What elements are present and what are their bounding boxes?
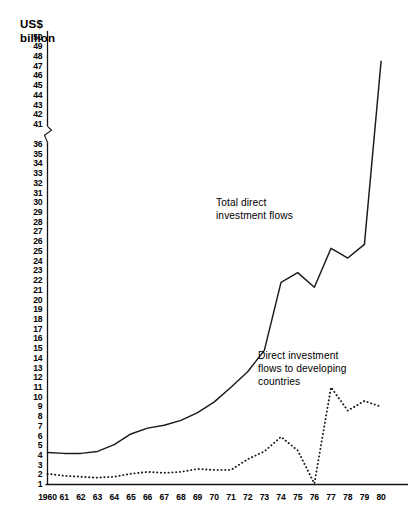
series-annotation-direct-investment-flows-to-developing-countries: Direct investment flows to developing co… <box>258 349 347 389</box>
y-axis-tick-23: 23 <box>19 266 43 275</box>
y-axis-tick-6: 6 <box>19 432 43 441</box>
y-axis-tick-46: 46 <box>19 71 43 80</box>
y-axis-tick-29: 29 <box>19 208 43 217</box>
y-axis-tick-31: 31 <box>19 189 43 198</box>
y-axis-tick-32: 32 <box>19 179 43 188</box>
data-series-layer <box>48 61 382 483</box>
y-axis-tick-28: 28 <box>19 218 43 227</box>
y-axis-tick-50: 50 <box>19 33 43 42</box>
y-axis-tick-16: 16 <box>19 334 43 343</box>
y-axis-tick-15: 15 <box>19 344 43 353</box>
y-axis-tick-26: 26 <box>19 237 43 246</box>
y-axis-tick-8: 8 <box>19 412 43 421</box>
series-annotation-total-direct-investment-flows: Total direct investment flows <box>216 196 293 222</box>
y-axis-tick-12: 12 <box>19 373 43 382</box>
y-axis-tick-13: 13 <box>19 364 43 373</box>
y-axis-tick-27: 27 <box>19 227 43 236</box>
y-axis-tick-3: 3 <box>19 461 43 470</box>
data-series-line-1 <box>48 61 382 453</box>
y-axis-tick-2: 2 <box>19 470 43 479</box>
axis-lines <box>45 31 409 485</box>
y-axis-tick-25: 25 <box>19 247 43 256</box>
y-axis-tick-4: 4 <box>19 451 43 460</box>
y-axis-tick-7: 7 <box>19 422 43 431</box>
y-axis-tick-30: 30 <box>19 198 43 207</box>
y-axis-break-marker <box>45 126 52 142</box>
y-axis-tick-17: 17 <box>19 325 43 334</box>
y-axis-tick-36: 36 <box>19 140 43 149</box>
y-axis-tick-43: 43 <box>19 101 43 110</box>
x-axis-tick-80: 80 <box>364 493 398 502</box>
y-axis-tick-21: 21 <box>19 286 43 295</box>
y-axis-tick-47: 47 <box>19 62 43 71</box>
y-axis-tick-35: 35 <box>19 150 43 159</box>
y-axis-tick-18: 18 <box>19 315 43 324</box>
y-axis-tick-14: 14 <box>19 354 43 363</box>
y-axis-tick-41: 41 <box>19 120 43 129</box>
y-axis-tick-24: 24 <box>19 257 43 266</box>
y-axis-tick-34: 34 <box>19 159 43 168</box>
y-axis-tick-45: 45 <box>19 81 43 90</box>
y-axis-tick-9: 9 <box>19 402 43 411</box>
y-axis-tick-49: 49 <box>19 42 43 51</box>
y-axis-tick-19: 19 <box>19 305 43 314</box>
y-axis-tick-42: 42 <box>19 110 43 119</box>
y-axis-tick-5: 5 <box>19 441 43 450</box>
y-axis-tick-10: 10 <box>19 393 43 402</box>
y-axis-tick-44: 44 <box>19 91 43 100</box>
y-axis-tick-33: 33 <box>19 169 43 178</box>
y-axis-tick-22: 22 <box>19 276 43 285</box>
y-axis-tick-1: 1 <box>19 480 43 489</box>
chart-plot-area <box>0 0 416 523</box>
y-axis-tick-20: 20 <box>19 296 43 305</box>
chart-container: US$ billion 5049484746454443424136353433… <box>0 0 416 523</box>
y-axis-tick-48: 48 <box>19 52 43 61</box>
y-axis-tick-11: 11 <box>19 383 43 392</box>
